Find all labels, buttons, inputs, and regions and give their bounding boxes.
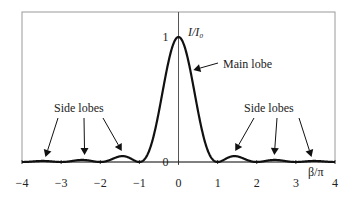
annotation-arrow: [44, 118, 58, 157]
x-tick-label: −1: [133, 176, 146, 190]
annotation-arrow: [299, 118, 313, 157]
chart: −4−3−2−101234 01 I/I₀ β/π Main lobe Side…: [0, 0, 354, 200]
x-tick-label: 2: [254, 176, 260, 190]
annotation-arrow: [80, 118, 88, 155]
x-tick-label: 0: [176, 176, 182, 190]
y-tick-label: 0: [163, 155, 169, 169]
x-tick-label: 3: [293, 176, 299, 190]
annotation-side-lobes-right: Side lobes: [244, 101, 294, 115]
annotation-arrow: [235, 118, 254, 151]
annotation-arrow: [193, 63, 218, 72]
x-tick-label: 4: [332, 176, 338, 190]
x-axis-title: β/π: [308, 165, 324, 179]
x-tick-label: 1: [215, 176, 221, 190]
x-tick-label: −2: [94, 176, 107, 190]
annotation-main-lobe: Main lobe: [223, 57, 272, 71]
x-tick-label: −3: [55, 176, 68, 190]
annotation-arrow: [271, 118, 279, 155]
x-tick-label: −4: [16, 176, 29, 190]
annotation-arrow: [103, 118, 122, 151]
annotation-side-lobes-left: Side lobes: [54, 101, 104, 115]
y-axis-title: I/I₀: [187, 25, 204, 39]
y-tick-label: 1: [163, 30, 169, 44]
